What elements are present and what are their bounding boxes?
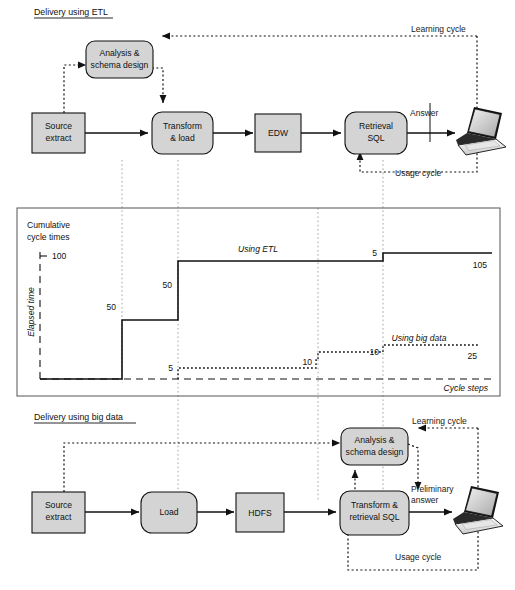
node-transform-etl-line1: Transform [163, 121, 202, 131]
laptop-icon-bigdata [453, 486, 503, 534]
figure-root: Delivery using ETL Answer Learning cycle… [0, 0, 515, 590]
chart-series-using-big-data [178, 345, 478, 379]
node-retrieval-sql-line2: SQL [367, 133, 384, 143]
diagram-canvas: Delivery using ETL Answer Learning cycle… [0, 0, 515, 590]
node-analysis-bd-line2: schema design [346, 447, 404, 457]
node-edw-label: EDW [268, 128, 289, 138]
chart-frame [17, 208, 500, 396]
laptop-icon-etl [456, 107, 506, 155]
node-analysis-etl-line1: Analysis & [99, 48, 139, 58]
label-answer: Answer [410, 108, 439, 118]
chart-etl-end-label: 105 [473, 260, 488, 270]
chart-etl-step-label-3: 5 [372, 248, 377, 258]
chart-series-label-bigdata: Using big data [392, 333, 447, 343]
dotted-source-to-analysis [64, 65, 86, 113]
node-hdfs-label: HDFS [248, 508, 272, 518]
chart-etl-step-label-2: 50 [162, 280, 172, 290]
section-title-bigdata: Delivery using big data [34, 412, 123, 422]
dotted-source-to-analysis-bd [64, 443, 340, 492]
node-source-extract-etl-line2: extract [46, 133, 72, 143]
chart-title-line2: cycle times [27, 232, 70, 242]
label-learning-cycle-bigdata: Learning cycle [412, 416, 467, 426]
chart-series-label-etl: Using ETL [238, 244, 278, 254]
etl-nodes: Source extract Analysis & schema design … [32, 41, 407, 154]
label-usage-cycle-etl: Usage cycle [395, 168, 442, 178]
node-transform-retrieval-line1: Transform & [351, 500, 398, 510]
chart-series-using-etl [40, 253, 492, 379]
node-load-label: Load [159, 507, 178, 517]
node-analysis-bd-line1: Analysis & [354, 435, 394, 445]
dotted-analysis-to-transform [152, 68, 163, 103]
node-source-extract-bd-line2: extract [46, 512, 72, 522]
bigdata-nodes: Source extract Load HDFS Analysis & sche… [32, 428, 409, 535]
label-learning-cycle-etl: Learning cycle [411, 24, 466, 34]
label-usage-cycle-bigdata: Usage cycle [395, 552, 442, 562]
chart-bigdata-end-label: 25 [467, 351, 477, 361]
chart-bigdata-step-label-1: 5 [168, 363, 173, 373]
chart-title-line1: Cumulative [27, 220, 70, 230]
label-preliminary-answer-line1: Preliminary [411, 484, 454, 494]
label-preliminary-answer-line2: answer [411, 495, 439, 505]
chart-etl-step-label-1: 50 [106, 302, 116, 312]
chart-ylabel: Elapsed time [26, 287, 36, 337]
node-transform-retrieval-line2: retrieval SQL [349, 512, 399, 522]
node-analysis-etl-line2: schema design [91, 60, 149, 70]
node-source-extract-bd-line1: Source [45, 500, 72, 510]
node-transform-etl-line2: & load [170, 133, 195, 143]
chart-xlabel: Cycle steps [444, 383, 489, 393]
chart-bigdata-step-label-3: 10 [369, 347, 379, 357]
chart-y-tick-label: 100 [52, 251, 67, 261]
node-source-extract-etl-line1: Source [45, 121, 72, 131]
chart-bigdata-step-label-2: 10 [302, 357, 312, 367]
section-title-etl: Delivery using ETL [34, 7, 108, 17]
node-retrieval-sql-line1: Retrieval [359, 121, 393, 131]
